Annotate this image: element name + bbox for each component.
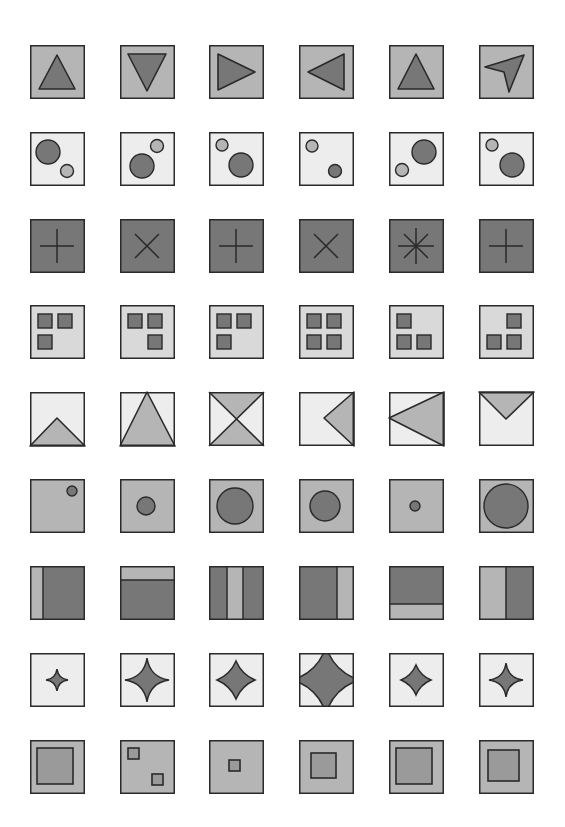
puzzle-grid: [0, 0, 565, 827]
tile-stars-2: [120, 653, 175, 707]
tile-small-squares-4: [299, 305, 354, 359]
tile-triangles-1: [30, 45, 85, 99]
tile-stars-4: [299, 653, 354, 707]
tile-triangles-2: [120, 45, 175, 99]
tile-stars-6: [479, 653, 534, 707]
tile-bands-3: [209, 566, 264, 620]
tile-two-circles-4: [299, 132, 354, 186]
tile-small-squares-1: [30, 305, 85, 359]
tile-triangles-6: [479, 45, 534, 99]
tile-nested-squares-2: [120, 740, 175, 794]
tile-crosses-1: [30, 219, 85, 273]
tile-triangles-3: [209, 45, 264, 99]
tile-single-circle-3: [209, 479, 264, 533]
tile-stars-3: [209, 653, 264, 707]
tile-stars-1: [30, 653, 85, 707]
tile-nested-squares-1: [30, 740, 85, 794]
tile-crosses-5: [389, 219, 444, 273]
tile-crosses-2: [120, 219, 175, 273]
tile-crosses-4: [299, 219, 354, 273]
tile-two-circles-1: [30, 132, 85, 186]
tile-line-triangles-1: [30, 392, 85, 446]
tile-small-squares-2: [120, 305, 175, 359]
tile-nested-squares-5: [389, 740, 444, 794]
tile-small-squares-5: [389, 305, 444, 359]
tile-small-squares-6: [479, 305, 534, 359]
tile-bands-1: [30, 566, 85, 620]
tile-bands-5: [389, 566, 444, 620]
tile-single-circle-4: [299, 479, 354, 533]
tile-bands-6: [479, 566, 534, 620]
tile-single-circle-5: [389, 479, 444, 533]
tile-bands-4: [299, 566, 354, 620]
tile-line-triangles-4: [299, 392, 354, 446]
tile-small-squares-3: [209, 305, 264, 359]
tile-single-circle-2: [120, 479, 175, 533]
tile-line-triangles-5: [389, 392, 444, 446]
tile-nested-squares-6: [479, 740, 534, 794]
tile-triangles-4: [299, 45, 354, 99]
tile-two-circles-2: [120, 132, 175, 186]
tile-two-circles-6: [479, 132, 534, 186]
tile-single-circle-6: [479, 479, 534, 533]
tile-nested-squares-4: [299, 740, 354, 794]
tile-line-triangles-6: [479, 392, 534, 446]
tile-crosses-3: [209, 219, 264, 273]
tile-line-triangles-3: [209, 392, 264, 446]
tile-two-circles-3: [209, 132, 264, 186]
tile-two-circles-5: [389, 132, 444, 186]
tile-bands-2: [120, 566, 175, 620]
tile-stars-5: [389, 653, 444, 707]
tile-single-circle-1: [30, 479, 85, 533]
tile-triangles-5: [389, 45, 444, 99]
tile-crosses-6: [479, 219, 534, 273]
tile-line-triangles-2: [120, 392, 175, 446]
tile-nested-squares-3: [209, 740, 264, 794]
